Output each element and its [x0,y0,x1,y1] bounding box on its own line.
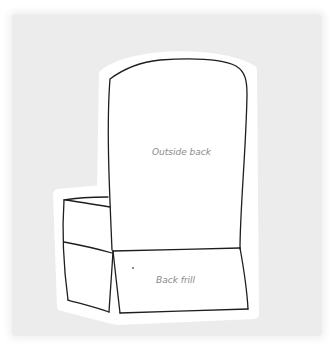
diagram-canvas: Outside back Back frill [0,0,332,349]
label-back-frill: Back frill [156,275,195,285]
chair-cover-sketch [0,0,332,349]
label-outside-back: Outside back [152,147,211,157]
pencil-mark [132,267,134,269]
